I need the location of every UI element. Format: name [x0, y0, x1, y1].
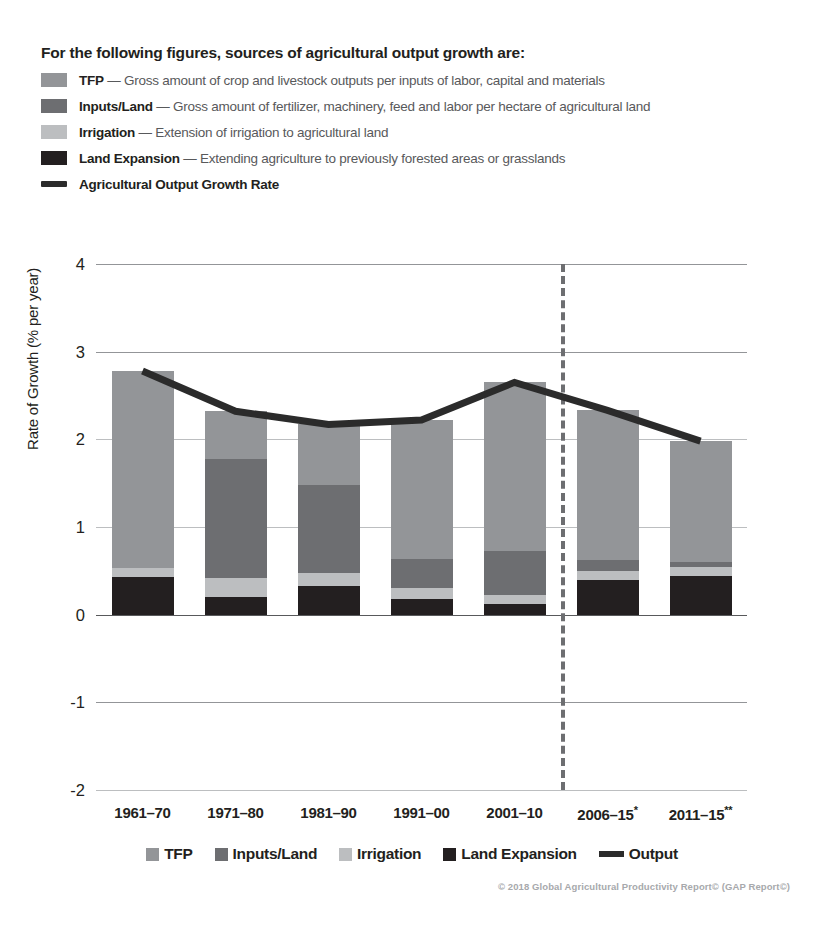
gridline--2: [96, 790, 747, 791]
chart-area: Rate of Growth (% per year) 43210-1-2 19…: [0, 250, 824, 850]
top-legend-item-label: Land Expansion — Extending agriculture t…: [79, 151, 565, 166]
top-legend: For the following figures, sources of ag…: [41, 44, 781, 201]
bottom-legend-item-tfp[interactable]: TFP: [146, 845, 192, 863]
legend-color-swatch-tfp: [41, 73, 67, 87]
legend-color-swatch-inputs: [41, 99, 67, 113]
y-axis-tick--2: -2: [70, 781, 85, 800]
bottom-legend-label: Land Expansion: [461, 845, 577, 863]
y-axis-tick-4: 4: [76, 255, 85, 274]
output-growth-line: [96, 264, 747, 790]
bottom-legend: TFPInputs/LandIrrigationLand ExpansionOu…: [0, 845, 824, 863]
bottom-legend-label: TFP: [164, 845, 192, 863]
top-legend-item-inputs: Inputs/Land — Gross amount of fertilizer…: [41, 97, 781, 115]
top-legend-item-label: Inputs/Land — Gross amount of fertilizer…: [79, 99, 650, 114]
bottom-legend-item-irrigation[interactable]: Irrigation: [339, 845, 421, 863]
top-legend-item-land: Land Expansion — Extending agriculture t…: [41, 149, 781, 167]
x-axis-labels: 1961–701971–801981–901991–002001–102006–…: [96, 804, 747, 828]
chart-page: For the following figures, sources of ag…: [0, 0, 824, 939]
legend-color-swatch: [146, 848, 159, 861]
top-legend-item-label: Irrigation — Extension of irrigation to …: [79, 125, 388, 140]
output-line-path: [143, 371, 701, 441]
bottom-legend-label: Inputs/Land: [233, 845, 318, 863]
y-axis-tick-3: 3: [76, 342, 85, 361]
copyright-notice: © 2018 Global Agricultural Productivity …: [0, 881, 790, 892]
y-axis-tick-1: 1: [76, 518, 85, 537]
bottom-legend-label: Output: [629, 845, 678, 863]
top-legend-item-label: Agricultural Output Growth Rate: [79, 177, 279, 192]
y-axis-label: Rate of Growth (% per year): [24, 268, 41, 450]
legend-color-swatch: [443, 848, 456, 861]
top-legend-item-label: TFP — Gross amount of crop and livestock…: [79, 73, 605, 88]
legend-color-swatch-irrigation: [41, 125, 67, 139]
bottom-legend-item-land-expansion[interactable]: Land Expansion: [443, 845, 577, 863]
bottom-legend-item-inputs-land[interactable]: Inputs/Land: [215, 845, 318, 863]
top-legend-item-irrigation: Irrigation — Extension of irrigation to …: [41, 123, 781, 141]
legend-color-swatch: [215, 848, 228, 861]
top-legend-title: For the following figures, sources of ag…: [41, 44, 781, 62]
legend-line-swatch: [599, 851, 624, 857]
plot-area: 43210-1-2: [96, 264, 747, 790]
y-axis-tick-2: 2: [76, 430, 85, 449]
top-legend-item-output: Agricultural Output Growth Rate: [41, 175, 781, 193]
y-axis-tick--1: -1: [70, 693, 85, 712]
bottom-legend-item-output[interactable]: Output: [599, 845, 678, 863]
x-axis-label-6: 2011–15**: [646, 804, 756, 823]
top-legend-item-tfp: TFP — Gross amount of crop and livestock…: [41, 71, 781, 89]
bottom-legend-label: Irrigation: [357, 845, 421, 863]
legend-line-swatch-output: [41, 181, 67, 187]
legend-color-swatch-land: [41, 151, 67, 165]
legend-color-swatch: [339, 848, 352, 861]
y-axis-tick-0: 0: [76, 605, 85, 624]
